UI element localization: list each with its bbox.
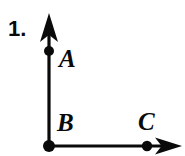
- point-b-label: B: [57, 110, 74, 135]
- point-c-dot: [142, 141, 152, 151]
- point-c-label: C: [138, 109, 155, 134]
- point-a-label: A: [59, 46, 76, 71]
- figure-canvas: [0, 0, 185, 156]
- point-b-vertex-dot: [43, 140, 55, 152]
- ray-bc-arrowhead-icon: [148, 138, 182, 155]
- geometry-figure: 1. A B C: [0, 0, 185, 156]
- ray-ba-arrowhead-icon: [40, 13, 58, 50]
- item-number-label: 1.: [8, 18, 26, 40]
- point-a-dot: [44, 46, 54, 56]
